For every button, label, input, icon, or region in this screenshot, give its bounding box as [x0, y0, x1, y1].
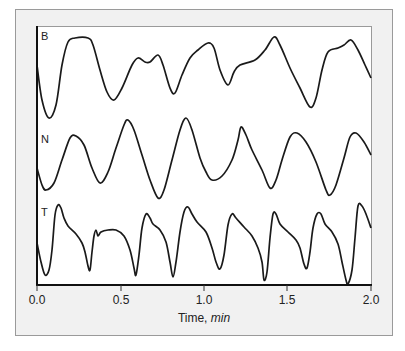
x-tick-label-2: 1.0	[196, 293, 213, 307]
x-tick-label-4: 2.0	[363, 293, 380, 307]
trace-label-n: N	[41, 133, 49, 145]
x-tick-label-3: 1.5	[279, 293, 296, 307]
trace-b	[37, 37, 371, 118]
x-axis-label-text: Time,	[178, 311, 211, 325]
x-axis-label: Time, min	[178, 311, 230, 325]
traces	[37, 37, 371, 285]
trace-t	[37, 203, 371, 284]
trace-label-t: T	[41, 206, 48, 218]
trace-label-b: B	[41, 30, 48, 42]
x-axis-label-unit: min	[211, 311, 230, 325]
x-tick-label-1: 0.5	[113, 293, 130, 307]
trace-n	[37, 118, 371, 198]
x-tick-label-0: 0.0	[29, 293, 46, 307]
